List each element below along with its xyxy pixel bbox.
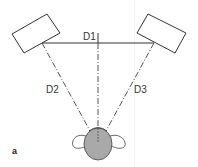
- left-speaker: [12, 14, 60, 53]
- label-d1: D1: [83, 31, 96, 42]
- label-d2: D2: [46, 84, 59, 95]
- figure-label: a: [12, 146, 18, 156]
- right-ear: [110, 135, 125, 148]
- right-speaker: [137, 14, 186, 53]
- listening-triangle-diagram: D1 D2 D3 a: [0, 0, 198, 167]
- label-d3: D3: [134, 84, 147, 95]
